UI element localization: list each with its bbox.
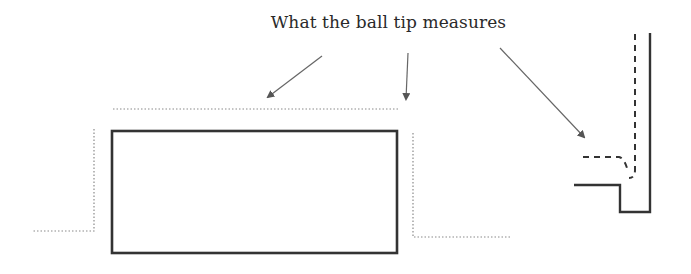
arrow-to-top-profile-left — [268, 56, 322, 97]
arrow-to-top-profile-right — [406, 53, 408, 99]
measured-profile-left — [33, 129, 94, 231]
ball-tip-path-dashed-horizontal — [583, 157, 627, 168]
arrows — [268, 48, 584, 137]
arrow-to-corner-detail — [500, 48, 584, 137]
measured-profile-right — [413, 133, 511, 237]
corner-solid-wall — [574, 33, 650, 212]
ball-tip-diagram — [0, 0, 691, 274]
measured-profile — [33, 109, 511, 237]
inner-corner-detail — [574, 33, 650, 212]
part-block — [112, 131, 397, 253]
ball-tip-path-dashed — [629, 34, 635, 178]
